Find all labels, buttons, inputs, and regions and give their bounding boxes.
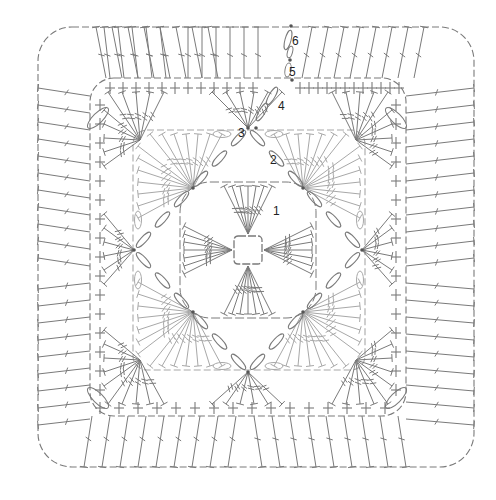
round-label-1: 1 xyxy=(273,205,280,217)
round-label-3: 3 xyxy=(238,127,245,139)
round-label-4: 4 xyxy=(278,100,285,112)
crochet-chart-svg xyxy=(0,0,496,500)
round-label-2: 2 xyxy=(270,154,277,166)
round-label-5: 5 xyxy=(289,66,296,78)
round-label-6: 6 xyxy=(292,35,299,47)
crochet-diagram: 1 2 3 4 5 6 xyxy=(0,0,496,500)
